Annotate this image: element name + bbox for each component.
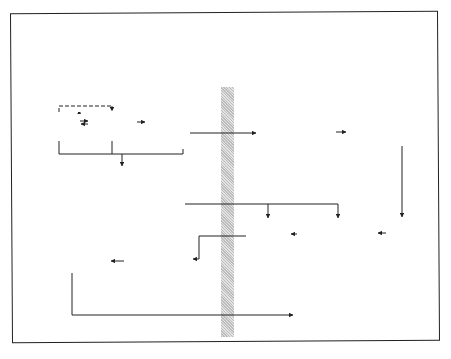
connector-lines	[0, 0, 451, 359]
